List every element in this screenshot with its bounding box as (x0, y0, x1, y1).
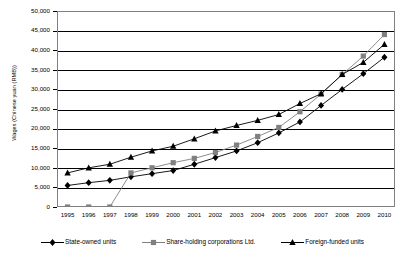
diamond-marker (234, 148, 240, 155)
diamond-marker (381, 54, 387, 61)
square-marker (86, 204, 91, 207)
square-marker (382, 32, 387, 37)
legend-marker-square-icon (142, 238, 165, 247)
y-axis-tick-label: 50,000 (4, 8, 50, 14)
line-chart: Wages (Chinese yuan (RMB)) 05,00010,0001… (0, 0, 405, 254)
diamond-marker (339, 86, 345, 93)
legend-swatch (150, 239, 157, 246)
y-axis-tick-label: 15,000 (4, 145, 50, 151)
diamond-marker (360, 70, 366, 77)
square-marker (213, 150, 218, 155)
series-line (68, 57, 385, 185)
diamond-marker (318, 102, 324, 109)
square-marker (65, 204, 70, 207)
diamond-marker (276, 130, 282, 137)
series-line (68, 44, 385, 173)
square-marker (192, 156, 197, 161)
y-axis-tick-label: 40,000 (4, 47, 50, 53)
x-axis-tick-label: 2010 (371, 211, 397, 218)
legend-label: Share-holding corporations Ltd. (166, 238, 255, 246)
diamond-marker (212, 154, 218, 161)
legend-item-triangle[interactable]: Foreign-funded units (281, 238, 364, 247)
diamond-marker (50, 239, 56, 246)
diamond-marker (255, 139, 261, 146)
square-marker (151, 239, 156, 244)
series-square (65, 32, 387, 207)
triangle-marker (297, 100, 303, 106)
y-axis-tick-label: 10,000 (4, 165, 50, 171)
triangle-marker (290, 239, 296, 245)
legend-label: State-owned units (65, 238, 116, 246)
triangle-marker (276, 111, 282, 117)
chart-legend: State-owned unitsShare-holding corporati… (0, 234, 405, 250)
legend-marker-diamond-icon (41, 238, 64, 247)
diamond-marker (149, 170, 155, 177)
y-axis-tick-label: 45,000 (4, 27, 50, 33)
square-marker (361, 53, 366, 58)
y-axis-tick-label: 25,000 (4, 106, 50, 112)
square-marker (128, 170, 133, 175)
square-marker (107, 204, 112, 207)
y-axis-tick-label: 0 (4, 204, 50, 210)
diamond-marker (86, 179, 92, 186)
diamond-marker (191, 161, 197, 168)
legend-swatch (49, 239, 56, 246)
square-marker (297, 109, 302, 114)
legend-marker-triangle-icon (281, 238, 304, 247)
series-layer (57, 11, 395, 207)
series-triangle (64, 41, 387, 176)
y-axis-tick-mark (53, 207, 57, 208)
diamond-marker (297, 119, 303, 126)
diamond-marker (107, 177, 113, 184)
legend-item-square[interactable]: Share-holding corporations Ltd. (142, 238, 255, 247)
diamond-marker (170, 167, 176, 174)
square-marker (149, 165, 154, 170)
y-axis-tick-label: 5,000 (4, 184, 50, 190)
y-axis-tick-label: 20,000 (4, 125, 50, 131)
triangle-marker (381, 41, 387, 47)
square-marker (276, 125, 281, 130)
square-marker (255, 134, 260, 139)
legend-swatch (289, 239, 296, 246)
square-marker (171, 160, 176, 165)
legend-label: Foreign-funded units (305, 238, 364, 246)
series-diamond (65, 54, 388, 189)
legend-item-diamond[interactable]: State-owned units (41, 238, 116, 247)
series-line (68, 35, 385, 207)
y-axis-tick-label: 35,000 (4, 67, 50, 73)
square-marker (234, 142, 239, 147)
y-axis-tick-label: 30,000 (4, 86, 50, 92)
diamond-marker (65, 182, 71, 189)
